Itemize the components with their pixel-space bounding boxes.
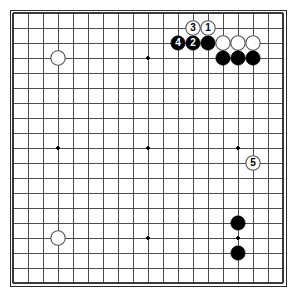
- white-stone[interactable]: [186, 21, 200, 35]
- star-point: [146, 146, 150, 150]
- black-stone[interactable]: [231, 246, 245, 260]
- white-stone[interactable]: [51, 231, 65, 245]
- white-stone[interactable]: [201, 21, 215, 35]
- white-stone[interactable]: [216, 36, 230, 50]
- black-stone[interactable]: [186, 36, 200, 50]
- white-stone[interactable]: [231, 36, 245, 50]
- star-point: [236, 146, 240, 150]
- star-point: [146, 56, 150, 60]
- black-stone[interactable]: [216, 51, 230, 65]
- star-point: [146, 236, 150, 240]
- black-stone[interactable]: [231, 51, 245, 65]
- white-stone[interactable]: [246, 156, 260, 170]
- black-stone[interactable]: [171, 36, 185, 50]
- black-stone[interactable]: [246, 51, 260, 65]
- black-stone[interactable]: [201, 36, 215, 50]
- star-point: [56, 146, 60, 150]
- star-point: [236, 236, 240, 240]
- black-stone[interactable]: [231, 216, 245, 230]
- go-board-grid[interactable]: [0, 0, 296, 303]
- go-board-diagram[interactable]: 42315: [0, 0, 296, 303]
- white-stone[interactable]: [246, 36, 260, 50]
- white-stone[interactable]: [51, 51, 65, 65]
